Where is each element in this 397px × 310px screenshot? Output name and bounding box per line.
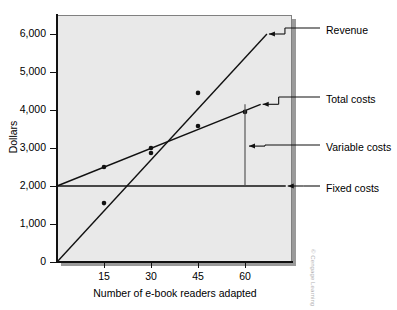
- data-point: [149, 146, 154, 151]
- data-point: [149, 151, 154, 156]
- callout-label-fixed-costs: Fixed costs: [326, 182, 379, 194]
- data-point: [102, 165, 107, 170]
- series-line-total-costs: [57, 104, 261, 186]
- series-line-revenue: [57, 34, 267, 262]
- series-data-points: [102, 91, 248, 206]
- callout-leader-lines: [249, 28, 320, 186]
- data-point: [102, 201, 107, 206]
- series-lines: [57, 34, 286, 262]
- copyright-credit: © Cengage Learning: [310, 249, 316, 310]
- callout-label-revenue: Revenue: [326, 24, 368, 36]
- data-point: [196, 124, 201, 129]
- data-point: [196, 91, 201, 96]
- callout-label-variable-costs: Variable costs: [326, 141, 391, 153]
- callout-label-total-costs: Total costs: [326, 93, 376, 105]
